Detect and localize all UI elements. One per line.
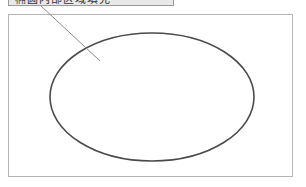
frame-rectangle — [9, 15, 293, 177]
diagram-canvas — [0, 0, 306, 187]
callout-label: 椭圆内部区域填充 — [8, 0, 174, 6]
